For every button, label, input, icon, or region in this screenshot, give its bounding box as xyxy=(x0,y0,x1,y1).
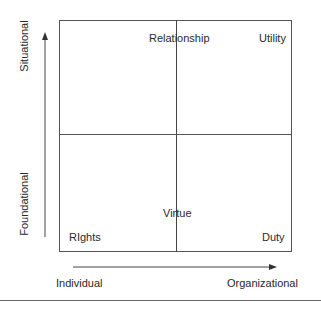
x-axis-arrow-icon xyxy=(73,264,277,270)
x-axis-label-individual: Individual xyxy=(56,277,102,289)
axis-arrows xyxy=(0,0,321,313)
bottom-rule xyxy=(0,300,321,301)
y-axis-arrow-icon xyxy=(42,32,48,237)
y-axis-label-foundational: Foundational xyxy=(18,172,30,236)
y-axis-label-situational: Situational xyxy=(18,20,30,71)
x-axis-label-organizational: Organizational xyxy=(227,277,298,289)
